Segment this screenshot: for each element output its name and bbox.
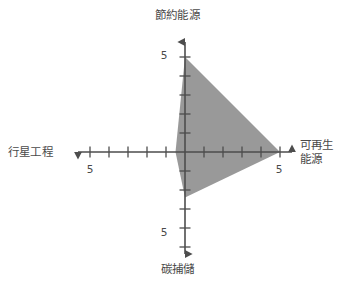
axis-label-carbon-capture: 碳捕儲 <box>0 262 355 276</box>
tick-label-right-5: 5 <box>270 163 288 175</box>
tick-label-down-5: 5 <box>155 226 173 238</box>
axis-label-renewable-energy: 可再生 能源 <box>300 138 355 166</box>
tick-label-left-5: 5 <box>81 163 99 175</box>
tick-label-up-5: 5 <box>155 49 173 61</box>
radar-chart: 節約能源 可再生 能源 碳捕儲 行星工程 5 5 5 5 <box>0 0 355 288</box>
data-polygon <box>176 57 281 198</box>
axis-label-planetary-engineering: 行星工程 <box>8 145 76 159</box>
axis-label-energy-conservation: 節約能源 <box>0 8 355 22</box>
